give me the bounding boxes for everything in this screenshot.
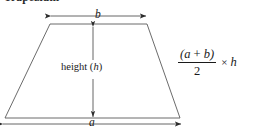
formula-plus-operator: + (190, 47, 203, 61)
height-label-close: ) (99, 61, 103, 72)
formula-denominator: 2 (194, 63, 200, 78)
trapezoid-area-figure: Trapezium b a height (h) (0, 0, 265, 137)
formula-fraction: (a + b) 2 (178, 48, 216, 77)
area-formula: (a + b) 2 × h (178, 48, 237, 77)
formula-paren-close: ) (210, 47, 214, 61)
top-base-label: b (95, 9, 101, 21)
formula-multiply-icon: × (221, 57, 227, 68)
formula-var-h: h (230, 56, 236, 69)
formula-numerator: (a + b) (178, 48, 216, 62)
height-label-text: height ( (61, 61, 93, 72)
bottom-base-label: a (89, 117, 95, 129)
height-label: height (h) (61, 62, 102, 73)
